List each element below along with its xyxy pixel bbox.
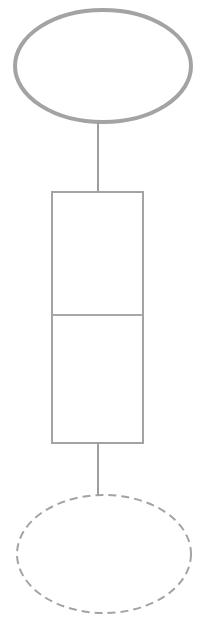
rect-cell-lower[interactable]: [53, 316, 142, 442]
node-bottom-ellipse[interactable]: [17, 495, 191, 613]
diagram-canvas: [0, 0, 208, 619]
diagram-surface: [0, 0, 208, 619]
rect-cell-upper[interactable]: [53, 193, 142, 314]
node-top-ellipse[interactable]: [15, 10, 191, 122]
